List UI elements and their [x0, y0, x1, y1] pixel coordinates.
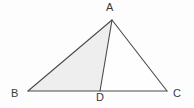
- vertex-label-d: D: [96, 92, 104, 103]
- vertex-label-b: B: [11, 88, 18, 99]
- vertex-label-c: C: [173, 88, 181, 99]
- geometry-figure: A B C D: [0, 0, 194, 108]
- vertex-label-a: A: [106, 2, 113, 13]
